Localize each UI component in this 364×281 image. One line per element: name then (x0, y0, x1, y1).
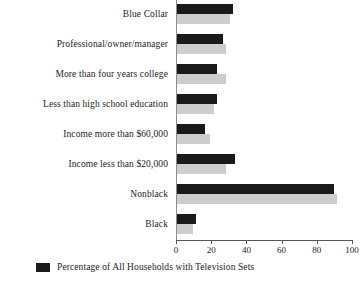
category-label-income-less-20000: Income less than $20,000 (0, 159, 168, 170)
bar-chart: Blue Collar Professional/owner/manager M… (0, 0, 364, 281)
x-axis-tick-label: 40 (232, 245, 260, 255)
bar (177, 104, 214, 114)
bar (177, 124, 205, 134)
bar (177, 184, 334, 194)
bar (177, 14, 230, 24)
x-axis-tick (317, 240, 318, 244)
category-label-more-than-four-years-college: More than four years college (0, 69, 168, 80)
bar (177, 214, 196, 224)
legend-label: Percentage of All Households with Televi… (57, 262, 254, 273)
bar (177, 194, 337, 204)
x-axis-tick-label: 100 (338, 245, 364, 255)
x-axis-tick (211, 240, 212, 244)
x-axis-tick (352, 240, 353, 244)
x-axis-tick-label: 80 (303, 245, 331, 255)
x-axis-tick (176, 240, 177, 244)
bar (177, 4, 233, 14)
x-axis-tick (246, 240, 247, 244)
bar (177, 164, 226, 174)
bar (177, 224, 193, 234)
legend: Percentage of All Households with Televi… (36, 262, 254, 273)
plot-area: 020406080100 (176, 0, 352, 240)
category-label-blue-collar: Blue Collar (0, 9, 168, 20)
x-axis-tick-label: 20 (197, 245, 225, 255)
legend-swatch-icon (36, 263, 50, 272)
category-label-nonblack: Nonblack (0, 189, 168, 200)
bar (177, 44, 226, 54)
category-label-income-more-60000: Income more than $60,000 (0, 129, 168, 140)
category-label-black: Black (0, 219, 168, 230)
bar (177, 134, 210, 144)
category-label-professional: Professional/owner/manager (0, 39, 168, 50)
x-axis-tick (282, 240, 283, 244)
x-axis-line (176, 240, 353, 241)
bar (177, 64, 217, 74)
x-axis-tick-label: 60 (268, 245, 296, 255)
bar (177, 34, 223, 44)
bar (177, 154, 235, 164)
bar (177, 94, 217, 104)
x-axis-tick-label: 0 (162, 245, 190, 255)
bar (177, 74, 226, 84)
category-label-less-than-high-school: Less than high school education (0, 99, 168, 110)
category-axis-labels: Blue Collar Professional/owner/manager M… (0, 0, 172, 240)
